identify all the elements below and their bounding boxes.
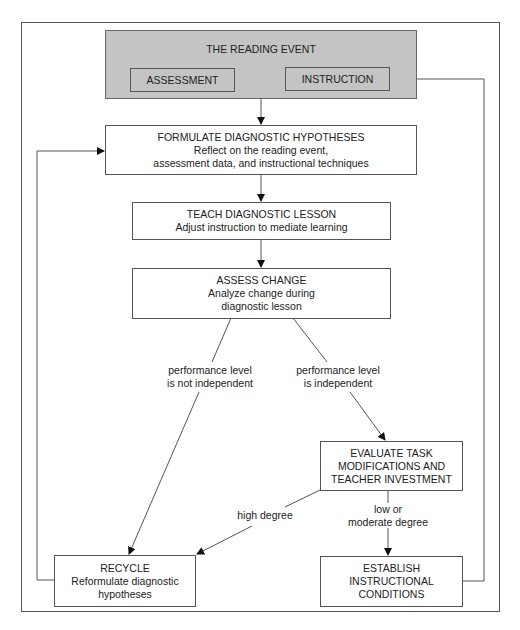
low-moderate-line1: low or <box>340 503 436 516</box>
assessment-box: ASSESSMENT <box>130 68 235 92</box>
assess-change-title: ASSESS CHANGE <box>217 274 307 287</box>
branch-independent-label: performance level is independent <box>283 364 393 390</box>
evaluate-line3: TEACHER INVESTMENT <box>331 473 452 486</box>
establish-line2: INSTRUCTIONAL <box>349 575 434 588</box>
teach-lesson-box: TEACH DIAGNOSTIC LESSON Adjust instructi… <box>132 202 391 240</box>
high-degree-label: high degree <box>230 509 300 522</box>
formulate-title: FORMULATE DIAGNOSTIC HYPOTHESES <box>158 131 365 144</box>
branch-independent-line1: performance level <box>283 364 393 377</box>
assess-change-line1: Analyze change during <box>208 287 315 300</box>
evaluate-task-box: EVALUATE TASK MODIFICATIONS AND TEACHER … <box>320 441 463 491</box>
recycle-title: RECYCLE <box>100 562 150 575</box>
evaluate-line2: MODIFICATIONS AND <box>338 460 445 473</box>
formulate-hypotheses-box: FORMULATE DIAGNOSTIC HYPOTHESES Reflect … <box>105 125 417 175</box>
instruction-box: INSTRUCTION <box>285 67 390 91</box>
reading-event-title: THE READING EVENT <box>106 43 416 56</box>
branch-not-independent-line2: is not independent <box>155 377 265 390</box>
assessment-label: ASSESSMENT <box>147 74 219 87</box>
low-moderate-label: low or moderate degree <box>340 503 436 529</box>
teach-title: TEACH DIAGNOSTIC LESSON <box>187 208 336 221</box>
branch-not-independent-label: performance level is not independent <box>155 364 265 390</box>
instruction-label: INSTRUCTION <box>302 73 374 86</box>
formulate-line1: Reflect on the reading event, <box>194 144 328 157</box>
establish-line1: ESTABLISH <box>363 562 420 575</box>
assess-change-box: ASSESS CHANGE Analyze change during diag… <box>132 268 391 319</box>
formulate-line2: assessment data, and instructional techn… <box>153 157 368 170</box>
recycle-line1: Reformulate diagnostic <box>71 575 178 588</box>
evaluate-line1: EVALUATE TASK <box>350 447 433 460</box>
assess-change-line2: diagnostic lesson <box>221 300 302 313</box>
teach-line1: Adjust instruction to mediate learning <box>175 221 347 234</box>
establish-conditions-box: ESTABLISH INSTRUCTIONAL CONDITIONS <box>320 556 463 607</box>
recycle-box: RECYCLE Reformulate diagnostic hypothese… <box>54 555 196 607</box>
branch-independent-line2: is independent <box>283 377 393 390</box>
recycle-line2: hypotheses <box>98 588 152 601</box>
establish-line3: CONDITIONS <box>359 588 425 601</box>
branch-not-independent-line1: performance level <box>155 364 265 377</box>
reading-event-box: THE READING EVENT ASSESSMENT INSTRUCTION <box>105 30 417 99</box>
low-moderate-line2: moderate degree <box>340 516 436 529</box>
